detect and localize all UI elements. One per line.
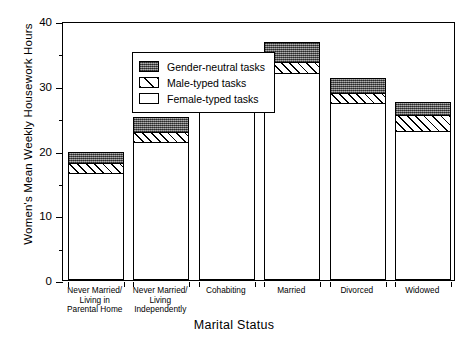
chart-figure: Women's Mean Weekly Housework Hours 0102… (0, 0, 468, 345)
bar-segment-male (133, 132, 189, 143)
legend-swatch-female (139, 93, 159, 104)
legend-label: Male-typed tasks (167, 77, 246, 89)
legend-swatch-neutral (139, 61, 159, 72)
bar-segment-female (68, 173, 124, 280)
plot-area: Gender-neutral tasksMale-typed tasksFema… (62, 22, 455, 281)
bar-segment-neutral (395, 102, 451, 116)
y-tick-label: 10 (39, 210, 52, 222)
x-tick-label: Widowed (390, 286, 456, 296)
bar-segment-neutral (68, 152, 124, 164)
x-tick-label: Never Married/ Living Independently (128, 286, 194, 315)
legend-label: Gender-neutral tasks (167, 61, 265, 73)
bar-5 (330, 79, 386, 280)
bar-segment-neutral (133, 117, 189, 133)
bar-segment-female (330, 103, 386, 280)
legend-label: Female-typed tasks (167, 93, 259, 105)
legend-item: Male-typed tasks (139, 75, 265, 90)
y-tick-major (56, 217, 63, 218)
y-tick-label: 30 (39, 81, 52, 93)
bar-segment-female (133, 141, 189, 280)
y-tick-label: 0 (46, 275, 52, 287)
y-tick-major (56, 23, 63, 24)
bar-2 (133, 118, 189, 280)
bar-segment-male (395, 115, 451, 132)
y-tick-label: 20 (39, 146, 52, 158)
bar-segment-neutral (330, 78, 386, 94)
legend-item: Female-typed tasks (139, 91, 265, 106)
legend-swatch-male (139, 77, 159, 88)
y-tick-major (56, 282, 63, 283)
y-tick-label: 40 (39, 16, 52, 28)
bar-segment-female (395, 130, 451, 280)
legend-item: Gender-neutral tasks (139, 59, 265, 74)
bar-segment-male (68, 163, 124, 175)
y-axis-tick-labels: 010203040 (10, 22, 52, 281)
bar-6 (395, 103, 451, 280)
x-axis-title: Marital Status (0, 318, 468, 332)
bar-segment-female (199, 103, 255, 280)
y-tick-major (56, 88, 63, 89)
bar-segment-male (330, 93, 386, 104)
x-tick-label: Cohabiting (193, 286, 259, 296)
bar-1 (68, 154, 124, 280)
x-tick-label: Married (259, 286, 325, 296)
chart-legend: Gender-neutral tasksMale-typed tasksFema… (132, 52, 275, 113)
x-tick-label: Divorced (324, 286, 390, 296)
y-tick-major (56, 153, 63, 154)
x-tick-label: Never Married/ Living in Parental Home (62, 286, 128, 315)
